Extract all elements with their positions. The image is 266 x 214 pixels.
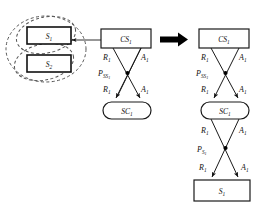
junction-dot-middle <box>125 71 129 75</box>
edge-cs1-a-line <box>118 48 141 95</box>
diagram-canvas: S1 S2 CS1 R1 A1 PSS1 R1 A1 SC1 <box>0 0 266 214</box>
label-r-upper-middle: R1 <box>102 53 111 63</box>
label-a-mid-right: A1 <box>238 85 247 95</box>
label-r-lower-middle: R1 <box>102 85 111 95</box>
label-p-s1-right: PS1 <box>196 145 207 156</box>
label-p-ss1-middle: PSS1 <box>97 69 110 80</box>
label-r-bottom-right: R1 <box>198 163 207 173</box>
label-a-bottom-right: A1 <box>240 163 249 173</box>
label-p-ss1-right: PSS1 <box>195 69 208 80</box>
label-a-upper-middle: A1 <box>140 53 149 63</box>
composition-diagram: S1 S2 CS1 R1 A1 PSS1 R1 A1 SC1 <box>0 0 266 214</box>
left-service-group: S1 S2 <box>6 11 101 86</box>
label-r-lower-right: R1 <box>200 126 209 136</box>
label-a-lower-middle: A1 <box>140 85 149 95</box>
junction-dot-right-lower <box>223 146 227 150</box>
label-a-top-right: A1 <box>238 53 247 63</box>
label-r-top-right: R1 <box>200 53 209 63</box>
label-r-mid-right: R1 <box>200 85 209 95</box>
right-panel: CS1 R1 A1 PSS1 R1 A1 SC1 R1 A1 PS1 R1 A1… <box>194 29 250 201</box>
junction-dot-right-upper <box>223 71 227 75</box>
label-a-lower-right: A1 <box>238 126 247 136</box>
transform-arrow <box>160 33 188 47</box>
middle-panel: CS1 R1 A1 PSS1 R1 A1 SC1 <box>97 29 151 119</box>
